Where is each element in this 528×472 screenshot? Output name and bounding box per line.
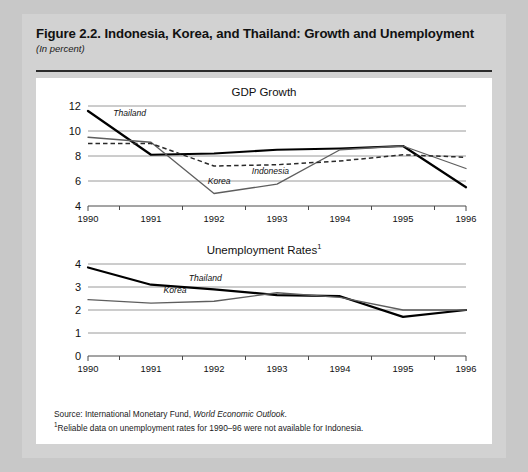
series-label-korea: Korea bbox=[164, 285, 187, 295]
y-axis-tick-label: 1 bbox=[75, 327, 81, 339]
chart-gdp-growth: GDP Growth 46810121990199119921993199419… bbox=[36, 80, 492, 238]
x-axis-tick-label: 1995 bbox=[393, 363, 414, 374]
y-axis-tick-label: 2 bbox=[75, 304, 81, 316]
y-axis-tick-label: 6 bbox=[75, 175, 81, 187]
source-area: Source: International Monetary Fund, Wor… bbox=[54, 409, 478, 434]
x-axis-tick-label: 1995 bbox=[393, 213, 414, 224]
y-axis-tick-label: 4 bbox=[75, 200, 81, 212]
x-axis-tick-label: 1996 bbox=[456, 363, 477, 374]
x-axis-tick-label: 1994 bbox=[330, 363, 351, 374]
page-title: Figure 2.2. Indonesia, Korea, and Thaila… bbox=[36, 26, 492, 41]
series-label-korea: Korea bbox=[208, 176, 231, 186]
plot-panel: GDP Growth 46810121990199119921993199419… bbox=[36, 78, 492, 444]
y-axis-tick-label: 0 bbox=[75, 350, 81, 362]
figure-subtitle: (In percent) bbox=[36, 43, 492, 54]
chart-unemployment-title-text: Unemployment Rates bbox=[207, 244, 318, 256]
chart-gdp-title-text: GDP Growth bbox=[232, 86, 297, 98]
figure-card: Figure 2.2. Indonesia, Korea, and Thaila… bbox=[22, 14, 506, 458]
y-axis-tick-label: 8 bbox=[75, 150, 81, 162]
chart-gdp-title: GDP Growth bbox=[36, 80, 492, 98]
source-footnote: 1Reliable data on unemployment rates for… bbox=[54, 421, 478, 434]
chart-unemployment-svg: 012341990199119921993199419951996Thailan… bbox=[36, 256, 492, 386]
source-publication: World Economic Outlook bbox=[193, 409, 284, 419]
y-axis-tick-label: 4 bbox=[75, 258, 81, 270]
series-line-thailand bbox=[88, 111, 466, 187]
chart-unemployment-canvas: 012341990199119921993199419951996Thailan… bbox=[36, 256, 492, 386]
x-axis-tick-label: 1994 bbox=[330, 213, 351, 224]
series-line-indonesia bbox=[88, 143, 466, 166]
figure-header: Figure 2.2. Indonesia, Korea, and Thaila… bbox=[36, 26, 492, 54]
source-prefix: Source: International Monetary Fund, bbox=[54, 409, 193, 419]
chart-gdp-canvas: 46810121990199119921993199419951996Thail… bbox=[36, 98, 492, 236]
chart-unemployment-title-superscript: 1 bbox=[317, 242, 321, 251]
series-label-thailand: Thailand bbox=[113, 108, 146, 118]
y-axis-tick-label: 3 bbox=[75, 281, 81, 293]
series-label-thailand: Thailand bbox=[189, 273, 222, 283]
y-axis-tick-label: 10 bbox=[69, 125, 81, 137]
footnote-text: Reliable data on unemployment rates for … bbox=[58, 423, 364, 433]
title-divider bbox=[36, 70, 492, 72]
x-axis-tick-label: 1996 bbox=[456, 213, 477, 224]
x-axis-tick-label: 1991 bbox=[141, 213, 162, 224]
chart-gdp-svg: 46810121990199119921993199419951996Thail… bbox=[36, 98, 492, 236]
x-axis-tick-label: 1992 bbox=[204, 213, 225, 224]
x-axis-tick-label: 1990 bbox=[78, 363, 99, 374]
figure-frame: Figure 2.2. Indonesia, Korea, and Thaila… bbox=[22, 14, 506, 458]
x-axis-tick-label: 1993 bbox=[267, 363, 288, 374]
chart-unemployment-rates: Unemployment Rates1 01234199019911992199… bbox=[36, 238, 492, 388]
source-suffix: . bbox=[285, 409, 287, 419]
x-axis-tick-label: 1991 bbox=[141, 363, 162, 374]
chart-unemployment-title: Unemployment Rates1 bbox=[36, 238, 492, 256]
x-axis-tick-label: 1992 bbox=[204, 363, 225, 374]
x-axis-tick-label: 1990 bbox=[78, 213, 99, 224]
source-citation: Source: International Monetary Fund, Wor… bbox=[54, 409, 478, 420]
series-label-indonesia: Indonesia bbox=[252, 165, 289, 175]
y-axis-tick-label: 12 bbox=[69, 100, 81, 112]
x-axis-tick-label: 1993 bbox=[267, 213, 288, 224]
